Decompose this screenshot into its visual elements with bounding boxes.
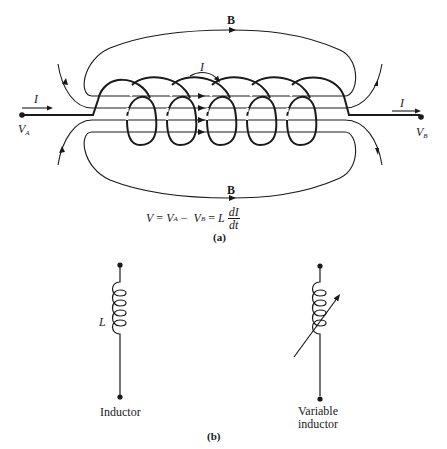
inductor-symbol — [113, 266, 127, 396]
caption-a: (a) — [213, 231, 226, 243]
coil-current-label: I — [200, 60, 204, 75]
inductor-caption: Inductor — [100, 405, 141, 420]
terminal-b-label: VB — [416, 125, 428, 140]
field-direction-arrows — [59, 27, 379, 201]
caption-b: (b) — [207, 430, 220, 442]
variable-inductor-caption: Variable inductor — [298, 405, 338, 431]
variable-inductor-symbol — [294, 266, 338, 396]
variable-inductor-bottom-terminal — [317, 396, 322, 401]
variable-inductor-top-terminal — [317, 263, 322, 268]
field-label-bottom: B — [227, 183, 235, 198]
terminal-a-label: VA — [18, 122, 30, 137]
input-current-label: I — [34, 92, 38, 107]
inductor-bottom-terminal — [117, 394, 122, 399]
terminal-a-dot — [19, 112, 25, 118]
output-current-label: I — [400, 96, 404, 111]
inductance-equation: V = VA − VB = L dIdt — [146, 206, 240, 231]
solenoid-coil — [20, 77, 420, 145]
inductance-symbol-label: L — [99, 315, 106, 330]
inductor-top-terminal — [117, 262, 122, 267]
field-label-top: B — [227, 13, 235, 28]
magnetic-field-lines — [58, 30, 382, 198]
terminal-b-dot — [418, 114, 424, 120]
